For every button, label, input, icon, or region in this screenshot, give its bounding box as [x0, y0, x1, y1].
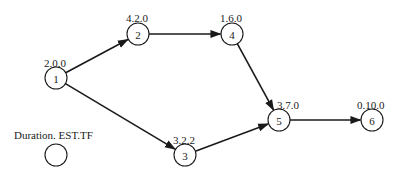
- node-3: 33.2.2: [173, 134, 196, 166]
- node-number: 2: [135, 29, 141, 41]
- node-annotation: 0.10.0: [357, 99, 385, 111]
- node-6: 60.10.0: [357, 99, 385, 131]
- node-number: 5: [276, 115, 282, 127]
- node-number: 6: [369, 115, 375, 127]
- legend-label: Duration. EST.TF: [14, 129, 93, 141]
- nodes-layer: 12.0.024.2.033.2.241.6.053.7.060.10.0: [44, 12, 385, 166]
- edge-4-to-5: [237, 44, 273, 110]
- node-number: 4: [229, 29, 235, 41]
- node-4: 41.6.0: [220, 12, 243, 45]
- edge-1-to-2: [66, 39, 128, 72]
- node-number: 3: [182, 150, 188, 162]
- node-2: 24.2.0: [126, 12, 149, 45]
- node-number: 1: [53, 73, 59, 85]
- node-annotation: 2.0.0: [44, 57, 67, 69]
- node-1: 12.0.0: [44, 57, 67, 89]
- node-annotation: 3.7.0: [277, 99, 300, 111]
- network-diagram: 12.0.024.2.033.2.241.6.053.7.060.10.0 Du…: [0, 0, 399, 178]
- node-annotation: 3.2.2: [173, 134, 195, 146]
- node-annotation: 4.2.0: [126, 12, 149, 24]
- node-5: 53.7.0: [268, 99, 300, 131]
- node-annotation: 1.6.0: [220, 12, 243, 24]
- edges-layer: [65, 34, 360, 151]
- legend-node-icon: [45, 144, 67, 166]
- legend: Duration. EST.TF: [14, 129, 93, 166]
- edge-3-to-5: [195, 124, 268, 151]
